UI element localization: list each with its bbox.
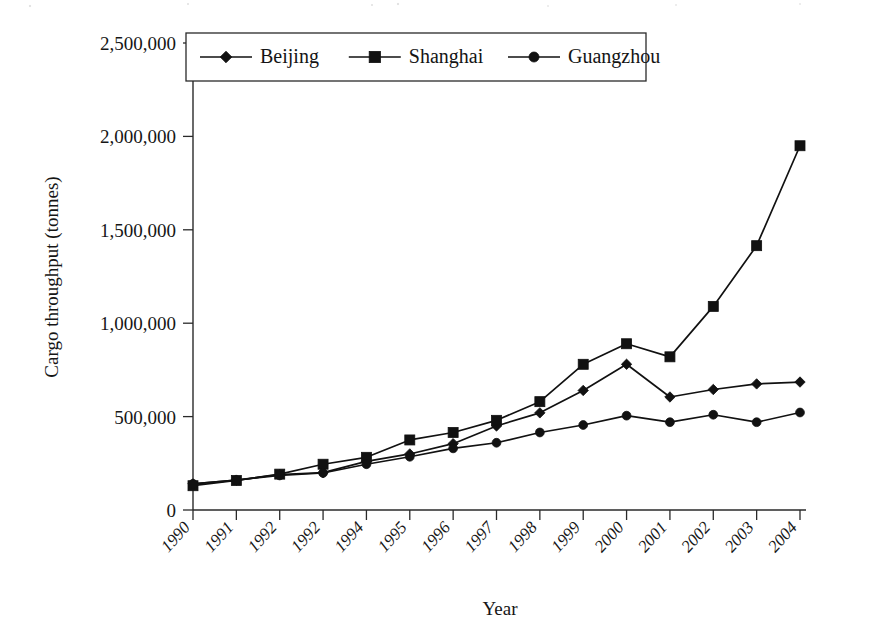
marker-square: [369, 51, 380, 62]
y-tick-label: 500,000: [114, 407, 176, 428]
y-axis-title: Cargo throughput (tonnes): [41, 176, 63, 377]
x-tick-label: 1994: [331, 518, 368, 556]
cargo-throughput-line-chart: 0500,0001,000,0001,500,0002,000,0002,500…: [0, 0, 869, 642]
marker-square: [795, 141, 805, 151]
y-axis-ticks: [183, 43, 193, 510]
x-tick-label: 1997: [461, 517, 499, 556]
marker-square: [492, 415, 502, 425]
x-tick-label: 1996: [417, 518, 454, 556]
marker-square: [708, 301, 718, 311]
marker-diamond: [535, 408, 545, 418]
marker-circle: [405, 452, 414, 461]
marker-square: [318, 459, 328, 469]
marker-diamond: [751, 379, 761, 389]
marker-diamond: [795, 377, 805, 387]
x-tick-label: 1992: [287, 518, 324, 556]
marker-circle: [275, 471, 284, 480]
marker-circle: [666, 418, 675, 427]
x-axis-title: Year: [482, 598, 518, 619]
x-tick-label: 2004: [764, 518, 801, 556]
marker-square: [405, 435, 415, 445]
marker-square: [535, 397, 545, 407]
y-tick-label: 1,000,000: [100, 313, 176, 334]
x-tick-label: 1990: [157, 518, 194, 556]
x-tick-label: 2002: [677, 518, 714, 556]
marker-circle: [449, 444, 458, 453]
marker-circle: [709, 410, 718, 419]
y-tick-label: 1,500,000: [100, 220, 176, 241]
marker-circle: [529, 52, 539, 62]
marker-circle: [319, 469, 328, 478]
marker-square: [622, 339, 632, 349]
marker-circle: [232, 476, 241, 485]
marker-square: [578, 359, 588, 369]
figure-container: 0500,0001,000,0001,500,0002,000,0002,500…: [0, 0, 869, 642]
marker-circle: [752, 418, 761, 427]
x-tick-label: 1998: [504, 518, 541, 556]
chart-legend: BeijingShanghaiGuangzhou: [186, 33, 660, 81]
x-tick-label: 1992: [244, 518, 281, 556]
x-tick-label: 2003: [721, 518, 758, 556]
marker-circle: [535, 428, 544, 437]
marker-circle: [189, 479, 198, 488]
x-axis-tick-labels: 1990199119921992199419951996199719981999…: [157, 517, 801, 556]
y-tick-label: 0: [167, 500, 177, 521]
marker-diamond: [708, 384, 718, 394]
marker-circle: [362, 460, 371, 469]
x-tick-label: 2000: [591, 518, 628, 556]
legend-label: Beijing: [260, 45, 319, 68]
marker-square: [752, 241, 762, 251]
y-axis-tick-labels: 0500,0001,000,0001,500,0002,000,0002,500…: [100, 33, 176, 521]
marker-diamond: [578, 385, 588, 395]
x-tick-label: 1991: [200, 518, 237, 556]
data-series-group: [188, 141, 805, 491]
marker-circle: [622, 411, 631, 420]
marker-square: [448, 427, 458, 437]
x-tick-label: 1999: [547, 518, 584, 556]
y-tick-label: 2,500,000: [100, 33, 176, 54]
marker-circle: [579, 421, 588, 430]
y-tick-label: 2,000,000: [100, 126, 176, 147]
x-axis-ticks: [193, 510, 800, 520]
marker-square: [665, 352, 675, 362]
legend-label: Shanghai: [409, 45, 484, 68]
x-tick-label: 2001: [634, 518, 671, 556]
x-tick-label: 1995: [374, 518, 411, 556]
marker-circle: [492, 438, 501, 447]
legend-label: Guangzhou: [568, 45, 660, 68]
series-line: [193, 146, 800, 486]
marker-circle: [796, 408, 805, 417]
